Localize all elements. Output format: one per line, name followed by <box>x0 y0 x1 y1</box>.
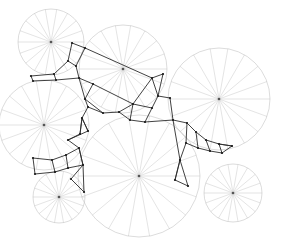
mesh-node-2 <box>32 80 34 82</box>
mesh-node-18 <box>144 121 146 123</box>
mesh-node-42 <box>67 167 69 169</box>
mesh-node-4 <box>71 42 73 44</box>
mesh-node-34 <box>179 159 181 161</box>
mesh-node-22 <box>157 95 159 97</box>
mesh-node-11 <box>87 106 89 108</box>
mesh-node-20 <box>151 77 153 79</box>
mesh-node-37 <box>32 157 34 159</box>
center-dot-circle-top-left <box>50 41 53 44</box>
mesh-node-12 <box>81 117 83 119</box>
mesh-node-14 <box>102 112 104 114</box>
mesh-node-46 <box>83 191 85 193</box>
center-dot-circle-bottom-left <box>58 196 61 199</box>
mesh-node-17 <box>129 119 131 121</box>
mesh-node-25 <box>186 122 188 124</box>
mesh-node-9 <box>92 83 94 85</box>
mesh-node-29 <box>231 145 233 147</box>
mesh-node-40 <box>54 171 56 173</box>
mesh-node-24 <box>172 119 174 121</box>
mesh-node-35 <box>174 179 176 181</box>
mesh-node-21 <box>162 73 164 75</box>
mesh-node-30 <box>185 142 187 144</box>
mesh-node-0 <box>30 75 32 77</box>
mesh-node-48 <box>79 133 81 135</box>
mesh-node-45 <box>70 178 72 180</box>
center-dot-circle-center-bottom <box>138 175 141 178</box>
mesh-node-44 <box>82 164 84 166</box>
center-dot-circle-right <box>218 98 221 101</box>
mesh-node-8 <box>78 77 80 79</box>
center-dot-circle-left <box>43 124 46 127</box>
mesh-node-39 <box>51 159 53 161</box>
mesh-node-31 <box>197 147 199 149</box>
mesh-node-6 <box>75 65 77 67</box>
mesh-node-19 <box>151 107 153 109</box>
mesh-node-16 <box>132 103 134 105</box>
mesh-node-36 <box>187 185 189 187</box>
mesh-node-15 <box>118 111 120 113</box>
mesh-node-38 <box>34 173 36 175</box>
mesh-node-27 <box>205 139 207 141</box>
mesh-node-23 <box>169 97 171 99</box>
mesh-node-47 <box>67 139 69 141</box>
mesh-node-33 <box>221 152 223 154</box>
mesh-node-1 <box>53 73 55 75</box>
mesh-node-43 <box>78 147 80 149</box>
mesh-node-28 <box>218 143 220 145</box>
mesh-node-10 <box>84 98 86 100</box>
diagram-background <box>0 0 281 241</box>
mesh-node-26 <box>195 131 197 133</box>
mesh-node-7 <box>67 60 69 62</box>
center-dot-circle-top-middle <box>122 68 125 71</box>
center-dot-circle-bottom-right <box>232 192 235 195</box>
mesh-node-3 <box>55 79 57 81</box>
mesh-node-5 <box>84 47 86 49</box>
mesh-node-41 <box>65 154 67 156</box>
circle-packing-diagram <box>0 0 281 241</box>
mesh-node-13 <box>87 130 89 132</box>
mesh-node-32 <box>209 150 211 152</box>
figure-container <box>0 0 281 241</box>
